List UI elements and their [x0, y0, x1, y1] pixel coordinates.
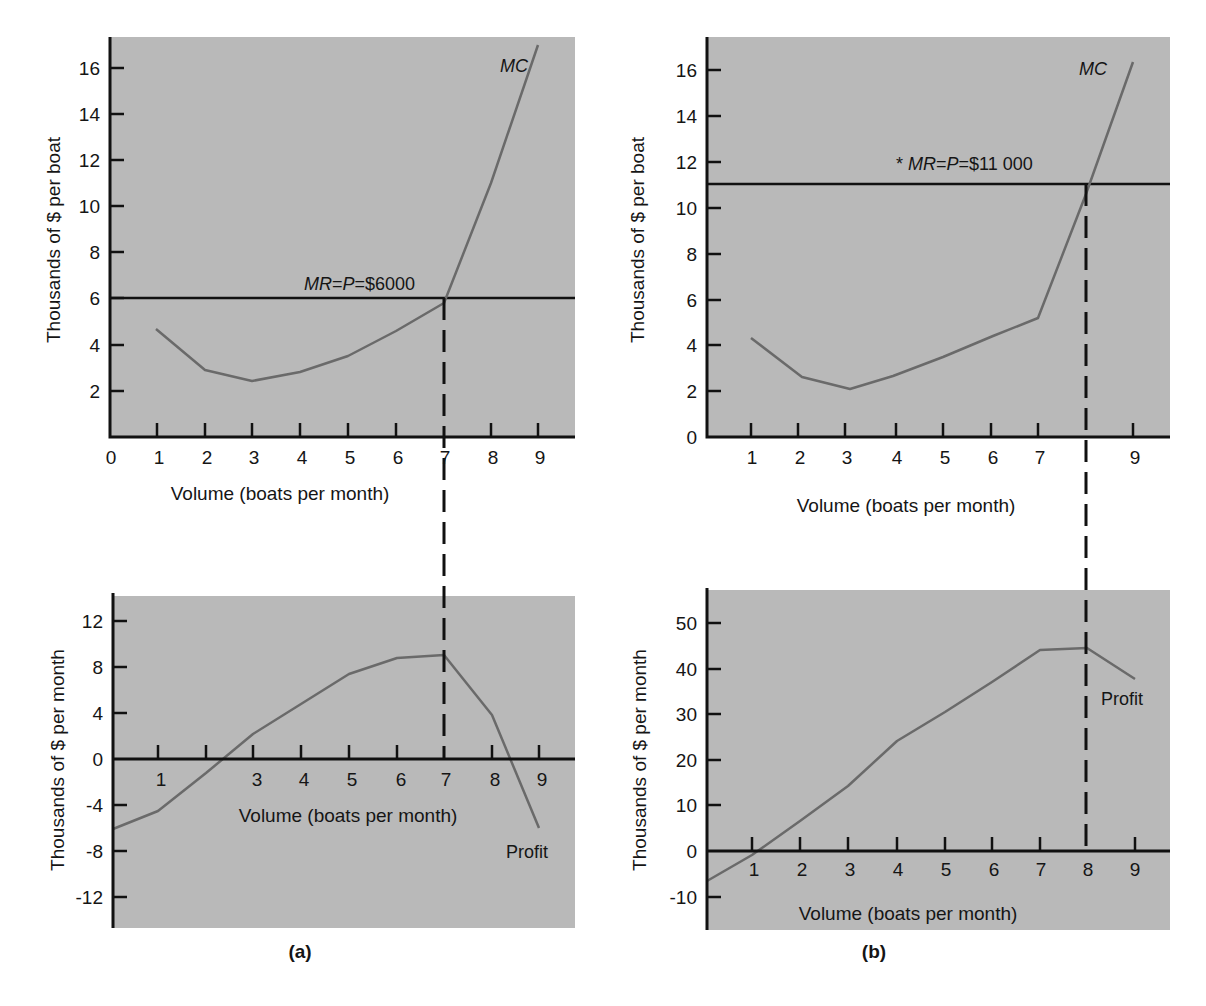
caption-b: (b): [862, 941, 886, 962]
svg-text:3: 3: [249, 447, 260, 468]
x-axis-label: Volume (boats per month): [239, 805, 458, 826]
x-axis-label: Volume (boats per month): [171, 483, 390, 504]
caption-a: (a): [288, 941, 311, 962]
svg-text:50: 50: [676, 613, 697, 634]
svg-text:4: 4: [299, 769, 310, 790]
y-axis-label: Thousands of $ per boat: [43, 136, 64, 343]
svg-text:6: 6: [396, 769, 407, 790]
svg-text:10: 10: [79, 196, 100, 217]
plot-area: [110, 37, 575, 437]
svg-text:8: 8: [92, 657, 103, 678]
svg-text:6: 6: [393, 447, 404, 468]
svg-text:3: 3: [842, 447, 853, 468]
svg-text:8: 8: [89, 242, 100, 263]
svg-text:0: 0: [686, 427, 697, 448]
plot-area: [707, 590, 1170, 930]
svg-text:6: 6: [989, 859, 1000, 880]
mr-label: MR=P=$6000: [304, 274, 415, 294]
svg-text:5: 5: [940, 447, 951, 468]
svg-text:40: 40: [676, 659, 697, 680]
svg-text:9: 9: [1130, 859, 1141, 880]
y-axis-label: Thousands of $ per month: [47, 649, 68, 871]
svg-text:4: 4: [297, 447, 308, 468]
svg-text:4: 4: [89, 335, 100, 356]
svg-text:4: 4: [686, 335, 697, 356]
mc-label: MC: [500, 56, 529, 76]
plot-area: [113, 596, 575, 928]
svg-text:12: 12: [676, 152, 697, 173]
figure: 2 4 6 8 10 12 14 16 0 1 2 3 4 5 6: [0, 0, 1206, 1006]
svg-text:0: 0: [686, 841, 697, 862]
y-tick-labels: 50 40 30 20 10 0 -10: [670, 613, 697, 908]
svg-text:5: 5: [941, 859, 952, 880]
svg-text:10: 10: [676, 198, 697, 219]
svg-text:7: 7: [1036, 859, 1047, 880]
svg-text:3: 3: [252, 769, 263, 790]
svg-text:14: 14: [79, 104, 101, 125]
svg-text:9: 9: [537, 769, 548, 790]
svg-text:14: 14: [676, 106, 698, 127]
chart-b-top: 0 2 4 6 8 10 12 14 16 1 2 3 4 5 6: [627, 37, 1170, 516]
y-tick-labels: 12 8 4 0 -4 -8 -12: [76, 611, 104, 908]
svg-text:5: 5: [347, 769, 358, 790]
svg-text:1: 1: [747, 447, 758, 468]
svg-text:8: 8: [686, 244, 697, 265]
svg-text:-4: -4: [86, 795, 103, 816]
y-tick-labels: 0 2 4 6 8 10 12 14 16: [676, 60, 698, 448]
svg-text:2: 2: [202, 447, 213, 468]
svg-text:20: 20: [676, 750, 697, 771]
svg-text:3: 3: [845, 859, 856, 880]
profit-label: Profit: [1101, 689, 1143, 709]
svg-text:-12: -12: [76, 887, 103, 908]
svg-text:10: 10: [676, 795, 697, 816]
x-tick-labels: 0 1 2 3 4 5 6 7 8 9: [106, 447, 546, 468]
svg-text:16: 16: [79, 58, 100, 79]
x-axis-label: Volume (boats per month): [799, 903, 1018, 924]
svg-text:8: 8: [490, 769, 501, 790]
svg-text:0: 0: [106, 447, 117, 468]
svg-text:5: 5: [345, 447, 356, 468]
svg-text:9: 9: [1130, 447, 1141, 468]
mc-label: MC: [1079, 59, 1108, 79]
svg-text:6: 6: [89, 288, 100, 309]
svg-text:0: 0: [92, 749, 103, 770]
svg-text:4: 4: [892, 447, 903, 468]
y-axis-label: Thousands of $ per boat: [627, 136, 648, 343]
svg-text:4: 4: [893, 859, 904, 880]
svg-text:16: 16: [676, 60, 697, 81]
svg-text:7: 7: [441, 769, 452, 790]
svg-text:1: 1: [154, 447, 165, 468]
svg-text:2: 2: [797, 859, 808, 880]
y-axis-label: Thousands of $ per month: [629, 649, 650, 871]
svg-text:-8: -8: [86, 841, 103, 862]
svg-text:8: 8: [488, 447, 499, 468]
mr-label: * MR=P=$11 000: [896, 154, 1033, 174]
svg-text:9: 9: [535, 447, 546, 468]
svg-text:12: 12: [79, 150, 100, 171]
chart-b-bottom: 50 40 30 20 10 0 -10 1 2 3 4 5 6 7 8: [629, 588, 1170, 962]
svg-text:2: 2: [686, 381, 697, 402]
svg-text:2: 2: [795, 447, 806, 468]
plot-area: [707, 37, 1170, 437]
svg-text:30: 30: [676, 704, 697, 725]
chart-a-bottom: 12 8 4 0 -4 -8 -12 1 3 4 5 6 7 8 9: [47, 593, 575, 962]
x-tick-labels: 1 2 3 4 5 6 7 9: [747, 447, 1141, 468]
svg-text:6: 6: [988, 447, 999, 468]
chart-a-top: 2 4 6 8 10 12 14 16 0 1 2 3 4 5 6: [43, 37, 575, 504]
svg-text:7: 7: [1035, 447, 1046, 468]
y-tick-labels: 2 4 6 8 10 12 14 16: [79, 58, 101, 402]
svg-text:8: 8: [1083, 859, 1094, 880]
svg-text:12: 12: [82, 611, 103, 632]
profit-label: Profit: [506, 842, 548, 862]
svg-text:4: 4: [92, 703, 103, 724]
svg-text:1: 1: [156, 769, 167, 790]
svg-text:-10: -10: [670, 887, 697, 908]
x-axis-label: Volume (boats per month): [797, 495, 1016, 516]
svg-text:6: 6: [686, 290, 697, 311]
svg-text:2: 2: [89, 381, 100, 402]
svg-text:1: 1: [749, 859, 760, 880]
